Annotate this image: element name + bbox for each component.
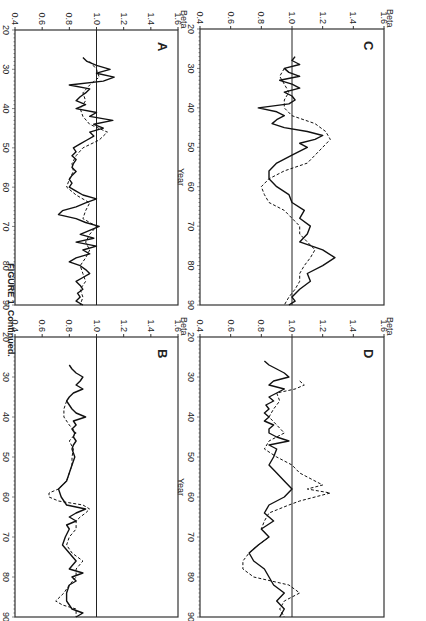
panel-letter: C: [361, 41, 376, 51]
x-tick-label: 60: [186, 182, 196, 192]
y-tick-label: 1.4: [146, 12, 156, 25]
y-tick-label: 0.6: [37, 12, 47, 25]
x-tick-label: 30: [1, 372, 11, 382]
x-tick-label: 40: [186, 412, 196, 422]
dashed-series-line: [261, 68, 330, 305]
x-tick-label: 30: [1, 64, 11, 74]
x-axis-label: Year: [176, 478, 186, 496]
panel-d: 1.61.41.21.00.80.60.42030405060708090Bet…: [176, 317, 395, 621]
y-tick-label: 1.4: [348, 11, 358, 24]
x-tick-label: 60: [1, 492, 11, 502]
y-axis-label: Beta: [385, 317, 395, 336]
y-tick-label: 0.8: [64, 319, 74, 332]
x-tick-label: 50: [186, 452, 196, 462]
x-tick-label: 80: [1, 572, 11, 582]
y-tick-label: 0.6: [226, 11, 236, 24]
y-tick-label: 1.4: [146, 319, 156, 332]
x-tick-label: 30: [186, 372, 196, 382]
y-tick-label: 0.8: [256, 319, 266, 332]
y-tick-label: 0.8: [64, 12, 74, 25]
x-tick-label: 70: [1, 221, 11, 231]
y-axis-label: Beta: [385, 9, 395, 28]
x-tick-label: 90: [186, 300, 196, 310]
x-tick-label: 50: [186, 142, 196, 152]
solid-series-line: [59, 365, 86, 617]
x-tick-label: 90: [186, 612, 196, 621]
x-tick-label: 20: [186, 332, 196, 342]
y-tick-label: 0.4: [195, 319, 205, 332]
x-tick-label: 70: [186, 221, 196, 231]
y-tick-label: 0.4: [195, 11, 205, 24]
panel-a: 1.61.41.21.00.80.60.42030405060708090Bet…: [0, 10, 189, 310]
x-tick-label: 40: [186, 103, 196, 113]
y-tick-label: 0.6: [37, 319, 47, 332]
dashed-series-line: [243, 381, 330, 617]
solid-series-line: [249, 361, 292, 617]
y-tick-label: 1.4: [348, 319, 358, 332]
dashed-series-line: [67, 61, 108, 305]
x-tick-label: 60: [186, 492, 196, 502]
x-tick-label: 20: [186, 24, 196, 34]
y-tick-label: 0.8: [256, 11, 266, 24]
x-tick-label: 70: [186, 532, 196, 542]
figure-stage: 1.61.41.21.00.80.60.42030405060708090Bet…: [0, 0, 426, 621]
figure-caption: FIGURE 1. Continued.: [6, 263, 16, 357]
y-tick-label: 0.4: [10, 12, 20, 25]
panel-letter: B: [155, 349, 170, 358]
x-tick-label: 60: [1, 182, 11, 192]
solid-series-line: [59, 58, 115, 306]
x-tick-label: 70: [1, 532, 11, 542]
y-tick-label: 0.6: [226, 319, 236, 332]
x-axis-label: Year: [0, 168, 1, 186]
y-tick-label: 1.0: [287, 319, 297, 332]
x-axis-label: Year: [0, 478, 1, 496]
y-tick-label: 1.2: [318, 319, 328, 332]
x-tick-label: 40: [1, 104, 11, 114]
panel-b: 1.61.41.21.00.80.60.42030405060708090Bet…: [0, 317, 189, 621]
x-tick-label: 50: [1, 143, 11, 153]
x-tick-label: 80: [186, 261, 196, 271]
x-tick-label: 40: [1, 412, 11, 422]
y-tick-label: 1.2: [318, 11, 328, 24]
panel-c: 1.61.41.21.00.80.60.42030405060708090Bet…: [176, 9, 395, 310]
y-tick-label: 1.2: [119, 12, 129, 25]
x-tick-label: 90: [1, 612, 11, 621]
x-axis-label: Year: [176, 168, 186, 186]
x-tick-label: 30: [186, 63, 196, 73]
panel-letter: A: [155, 42, 170, 52]
panel-letter: D: [361, 349, 376, 358]
y-tick-label: 1.0: [287, 11, 297, 24]
y-tick-label: 1.2: [119, 319, 129, 332]
x-tick-label: 80: [186, 572, 196, 582]
figure-canvas: 1.61.41.21.00.80.60.42030405060708090Bet…: [0, 0, 426, 621]
x-tick-label: 50: [1, 452, 11, 462]
solid-series-line: [258, 57, 335, 305]
x-tick-label: 20: [1, 25, 11, 35]
y-tick-label: 1.0: [92, 12, 102, 25]
y-tick-label: 1.0: [92, 319, 102, 332]
